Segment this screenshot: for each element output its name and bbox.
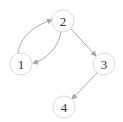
edge-2-to-3 [71,29,96,56]
node-3: 3 [93,53,115,75]
directed-graph: 1 2 3 4 [0,0,123,122]
node-4: 4 [53,96,75,118]
edge-1-to-2 [18,20,52,53]
node-label: 1 [18,57,25,72]
edge-2-to-1 [33,32,61,63]
node-label: 2 [60,14,67,29]
node-2: 2 [52,10,74,32]
node-1: 1 [10,53,32,75]
node-label: 4 [61,100,68,115]
node-label: 3 [101,57,108,72]
edge-3-to-4 [72,73,97,99]
